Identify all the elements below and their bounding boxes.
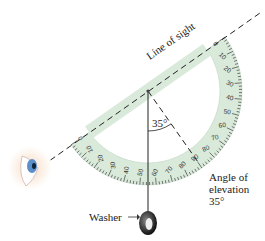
angle-label: 35° [152,117,167,129]
elevation-label-2: elevation [209,183,249,195]
svg-text:60: 60 [218,121,226,129]
svg-text:40: 40 [122,166,130,174]
elevation-label-3: 35° [209,195,224,207]
svg-text:30: 30 [109,161,117,169]
protractor-diagram: 010203040506070809080706050403020100 Lin… [0,0,265,241]
diagram-graphic: 010203040506070809080706050403020100 [0,0,265,241]
washer-label: Washer [89,211,122,223]
pivot-point [146,89,149,92]
svg-text:50: 50 [223,108,231,116]
eye-icon [8,146,52,190]
elevation-label-1: Angle of [209,171,248,183]
